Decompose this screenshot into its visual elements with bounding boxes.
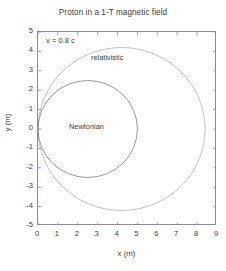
y-tick-label: -5 <box>15 221 33 229</box>
x-axis-label: x (m) <box>37 249 216 258</box>
y-tick-label: -1 <box>15 143 33 151</box>
y-axis-label: y (m) <box>3 103 12 143</box>
x-tick-label: 5 <box>128 230 144 238</box>
x-tick-label: 2 <box>69 230 85 238</box>
y-tick-label: -2 <box>15 163 33 171</box>
y-tick-label: 0 <box>15 124 33 132</box>
x-tick-label: 4 <box>109 230 125 238</box>
curve-label-relativistic: relativistic <box>91 53 123 62</box>
data-curves <box>38 48 205 211</box>
plot-area: v = 0.8 c relativistic Newtonian <box>37 31 216 225</box>
x-tick-label: 1 <box>49 230 65 238</box>
y-tick-label: 5 <box>15 27 33 35</box>
x-tick-label: 0 <box>29 230 45 238</box>
chart-figure: Proton in a 1-T magnetic field v = 0.8 c… <box>0 0 226 271</box>
y-tick-label: -3 <box>15 182 33 190</box>
y-tick-label: 2 <box>15 85 33 93</box>
y-tick-label: 1 <box>15 105 33 113</box>
y-tick-label: -4 <box>15 202 33 210</box>
x-tick-label: 3 <box>89 230 105 238</box>
curve-relativistic <box>38 48 205 211</box>
velocity-annotation: v = 0.8 c <box>46 36 75 45</box>
curve-label-newtonian: Newtonian <box>69 122 104 131</box>
x-tick-label: 7 <box>168 230 184 238</box>
x-tick-label: 8 <box>188 230 204 238</box>
y-tick-label: 4 <box>15 46 33 54</box>
y-tick-label: 3 <box>15 66 33 74</box>
plot-canvas <box>38 32 216 225</box>
chart-title: Proton in a 1-T magnetic field <box>0 8 226 17</box>
tick-marks <box>38 32 216 225</box>
x-tick-label: 6 <box>148 230 164 238</box>
x-tick-label: 9 <box>208 230 224 238</box>
